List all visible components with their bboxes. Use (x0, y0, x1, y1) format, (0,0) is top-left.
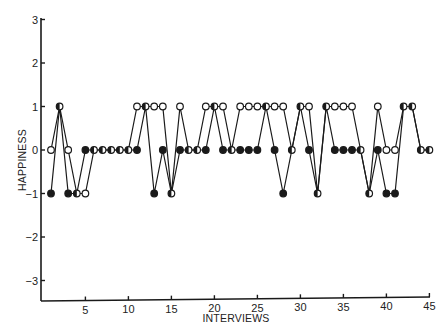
y-tick-label: 1 (32, 101, 38, 113)
data-point-filled (65, 190, 72, 197)
data-point-open (65, 147, 72, 154)
data-point-filled (246, 147, 253, 154)
data-point-open (340, 103, 347, 110)
y-tick-label: 3 (32, 14, 38, 26)
data-point-open (237, 103, 244, 110)
data-point-open (271, 103, 278, 110)
data-point-open (220, 103, 227, 110)
data-point-filled (48, 190, 55, 197)
data-point-open (332, 103, 339, 110)
x-tick-label: 40 (380, 300, 392, 312)
x-tick-label: 30 (294, 301, 306, 313)
x-tick-label: 10 (122, 303, 134, 315)
happiness-chart: 3210−1−2−3 51015202530354045 HAPPINESS I… (0, 0, 445, 333)
data-point-open (254, 103, 261, 110)
data-point-open (306, 103, 313, 110)
data-point-open (203, 103, 210, 110)
data-point-open (151, 103, 158, 110)
data-point-filled (280, 190, 287, 197)
data-point-open (349, 103, 356, 110)
plot-area (48, 103, 433, 197)
x-axis-title: INTERVIEWS (202, 312, 269, 324)
data-point-open (82, 190, 89, 197)
data-point-filled (151, 190, 158, 197)
y-axis: 3210−1−2−3 (25, 14, 45, 302)
data-point-filled (237, 147, 244, 154)
data-point-open (280, 103, 287, 110)
data-point-open (48, 147, 55, 154)
data-point-filled (271, 147, 278, 154)
data-point-open (392, 147, 399, 154)
data-point-open (383, 147, 390, 154)
data-point-filled (220, 147, 227, 154)
y-tick-label: −2 (25, 231, 38, 243)
data-point-filled (349, 147, 356, 154)
data-point-filled (332, 147, 339, 154)
data-point-filled (203, 147, 210, 154)
data-point-open (134, 103, 141, 110)
data-point-filled (177, 147, 184, 154)
data-point-filled (160, 147, 167, 154)
data-point-filled (82, 147, 89, 154)
data-point-open (177, 103, 184, 110)
data-point-open (160, 103, 167, 110)
data-point-filled (375, 147, 382, 154)
y-tick-label: −3 (25, 275, 38, 287)
x-tick-label: 45 (423, 300, 435, 312)
data-point-filled (254, 147, 261, 154)
x-tick-label: 35 (337, 301, 349, 313)
data-point-filled (134, 147, 141, 154)
data-point-open (246, 103, 253, 110)
data-point-filled (383, 190, 390, 197)
data-point-open (375, 103, 382, 110)
y-tick-label: 0 (32, 144, 38, 156)
data-point-filled (392, 190, 399, 197)
data-point-filled (306, 147, 313, 154)
y-axis-title: HAPPINESS (16, 129, 28, 191)
x-tick-label: 5 (82, 304, 88, 316)
y-tick-label: 2 (32, 57, 38, 69)
x-tick-label: 15 (165, 303, 177, 315)
data-point-filled (340, 147, 347, 154)
